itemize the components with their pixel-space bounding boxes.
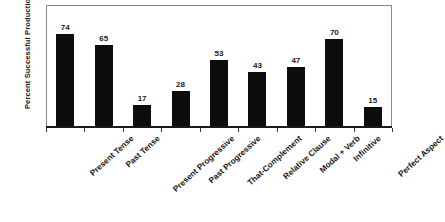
bar-value-label: 53 bbox=[215, 49, 224, 58]
bar-value-label: 70 bbox=[330, 28, 339, 37]
bar bbox=[364, 107, 382, 126]
bar-group: 47 bbox=[277, 5, 315, 126]
bar-group: 15 bbox=[354, 5, 392, 126]
bar-group: 70 bbox=[315, 5, 353, 126]
bar-group: 74 bbox=[46, 5, 84, 126]
bar-group: 53 bbox=[200, 5, 238, 126]
bar bbox=[287, 67, 305, 126]
bar-value-label: 74 bbox=[61, 23, 70, 32]
bar bbox=[56, 34, 74, 126]
bar-group: 65 bbox=[84, 5, 122, 126]
bar-value-label: 43 bbox=[253, 61, 262, 70]
bar-group: 43 bbox=[238, 5, 276, 126]
x-axis-category-labels: Present TensePast TensePresent Progressi… bbox=[0, 128, 404, 222]
x-axis-category-label: Present Tense bbox=[88, 134, 135, 178]
bar-value-label: 28 bbox=[176, 80, 185, 89]
y-axis-title: Percent Successful Production bbox=[23, 0, 32, 112]
bar bbox=[172, 91, 190, 126]
bar-value-label: 47 bbox=[291, 56, 300, 65]
bar-group: 17 bbox=[123, 5, 161, 126]
bar-value-label: 17 bbox=[138, 94, 147, 103]
bars-container: 746517285343477015 bbox=[46, 5, 392, 126]
bar-value-label: 65 bbox=[99, 34, 108, 43]
bar bbox=[210, 60, 228, 126]
bar bbox=[133, 105, 151, 126]
y-axis-title-container: Percent Successful Production bbox=[0, 0, 46, 130]
bar-group: 28 bbox=[161, 5, 199, 126]
x-axis-category-label: Perfect Aspect bbox=[396, 134, 444, 179]
bar bbox=[325, 39, 343, 126]
bar bbox=[95, 45, 113, 126]
bar bbox=[248, 72, 266, 126]
bar-value-label: 15 bbox=[368, 96, 377, 105]
